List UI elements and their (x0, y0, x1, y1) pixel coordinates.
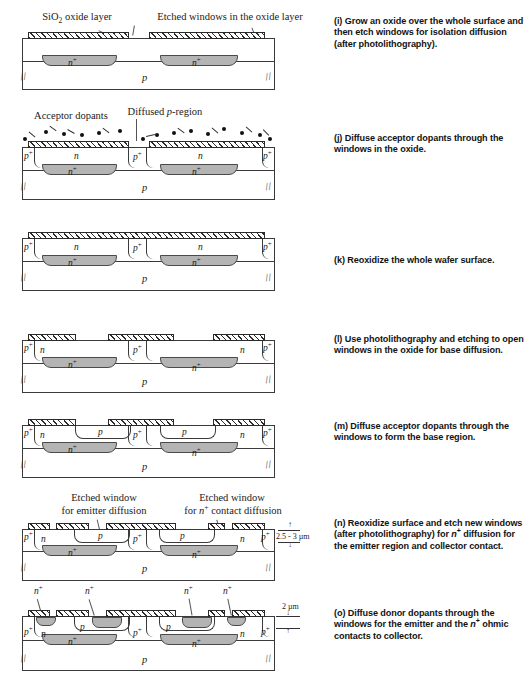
caption-marker-k: (k) (334, 255, 345, 265)
oxide-segment-1-m (28, 419, 76, 426)
label-p-substrate-l: p (142, 376, 147, 387)
label-p-plus-right-o: p+ (261, 627, 270, 637)
label-n-plus-callout-2-o: n+ (85, 586, 94, 596)
label-p-plus-mid-o: p+ (133, 628, 142, 638)
cross-section-n: p+ n p p+ p n p+ n+ n+ p // // ↑ 2.5 - 3… (0, 492, 340, 580)
label-p-plus-right-j: p+ (263, 151, 272, 161)
dimension-arrow-bottom-o: ↑ (286, 628, 290, 634)
buried-n-plus-left-n (42, 545, 117, 556)
caption-step-k: (k) Reoxidize the whole wafer surface. (334, 255, 530, 266)
label-p-base-right-o: p (166, 622, 171, 632)
oxide-segment-3-l (213, 334, 265, 341)
label-n-left-o: n (41, 629, 46, 639)
oxide-segment-1-l (28, 334, 76, 341)
label-p-substrate-j: p (142, 182, 147, 193)
label-n-right-k: n (198, 242, 203, 252)
n-plus-emitter-right-o (182, 617, 212, 628)
label-p-base-right-m: p (182, 427, 187, 437)
caption-text-j-line1: Diffuse acceptor dopants through the (345, 133, 504, 143)
label-n-plus-left-i: n+ (68, 58, 77, 68)
buried-n-plus-left-o (42, 634, 117, 645)
dopant-dot (141, 137, 145, 141)
oxide-layer-left-j (28, 141, 129, 148)
dopant-dot (172, 131, 176, 135)
caption-text-j-line2: windows in the oxide. (334, 144, 426, 154)
oxide-layer-right-j (149, 141, 265, 148)
dopant-dot (44, 130, 48, 134)
dimension-arrow-bottom-n: ↓ (288, 542, 292, 548)
caption-marker-n: (n) (334, 518, 345, 528)
label-p-base-right-n: p (180, 531, 185, 541)
caption-step-l: (l) Use photolithography and etching to … (334, 334, 530, 357)
label-p-plus-mid-n: p+ (133, 534, 142, 544)
panel-step-o: n+ n+ n+ n+ (0, 580, 340, 692)
dimension-label-o: 2 µm (282, 602, 299, 611)
leader-line-n-plus-2-o (89, 597, 101, 615)
label-n-plus-callout-1-o: n+ (34, 586, 43, 596)
dopant-dot (97, 131, 101, 135)
oxide-segment-4-o (208, 610, 225, 617)
cross-section-k: p+ n p+ n p+ n+ n+ p // // (0, 228, 330, 320)
oxide-segment-1-o (28, 610, 50, 617)
label-n-left-n: n (41, 534, 46, 544)
dopant-arrow (212, 128, 219, 134)
label-p-substrate-i: p (142, 72, 147, 83)
isolation-wall-left-k (34, 239, 41, 259)
caption-text-i-line3: photolithography). (359, 39, 438, 49)
label-n-plus-right-n: n+ (192, 550, 201, 560)
label-n-plus-right-j: n+ (192, 167, 201, 177)
label-p-substrate-o: p (142, 654, 147, 665)
label-n-plus-left-m: n+ (68, 445, 77, 455)
label-p-plus-right-m: p+ (263, 428, 272, 438)
isolation-wall-left-o (34, 617, 41, 637)
cross-section-o: n+ n+ n+ n+ (0, 580, 340, 692)
oxide-segment-4-n (208, 523, 225, 530)
dopant-arrow (177, 128, 184, 133)
dopant-dot (258, 133, 262, 137)
panel-step-j: Acceptor dopants Diffused p-region (0, 102, 330, 207)
oxide-segment-2-n (56, 523, 89, 530)
oxide-layer-right-i (149, 32, 265, 39)
label-n-right-j: n (198, 151, 203, 161)
label-n-left-k: n (74, 242, 79, 252)
dopant-dot (155, 133, 159, 137)
oxide-segment-2-m (108, 419, 174, 426)
dopant-dot (62, 132, 66, 136)
label-n-plus-right-i: n+ (192, 58, 201, 68)
oxide-segment-3-n (106, 523, 176, 530)
caption-text-n-line2: (after photolithography) for n+ diffusio… (334, 529, 515, 539)
caption-marker-m: (m) (334, 421, 348, 431)
caption-text-m-line1: Diffuse acceptor dopants through (350, 421, 493, 431)
isolation-wall-mid-b-k (146, 239, 153, 259)
isolation-wall-mid-b-o (146, 617, 153, 637)
caption-text-n-line3: the emitter region and collector contact… (334, 541, 503, 551)
label-p-plus-mid-k: p+ (133, 243, 142, 253)
p-base-left-m (75, 426, 131, 439)
dopant-arrow (263, 129, 269, 135)
label-p-plus-mid-m: p+ (133, 430, 142, 440)
label-n-left-j: n (74, 151, 79, 161)
caption-text-l-line2: windows in the oxide for base diffusion. (334, 345, 503, 355)
caption-text-i-line1: Grow an oxide over the whole surface and (345, 16, 523, 26)
caption-text-l-line1: Use photolithography and etching to open (345, 334, 524, 344)
panel-step-n: Etched window for emitter diffusion Etch… (0, 492, 340, 580)
oxide-segment-2-l (108, 334, 174, 341)
oxide-segment-5-n (232, 523, 265, 530)
dimension-arrow-top-n: ↑ (288, 522, 292, 528)
dopant-arrow (246, 126, 253, 132)
label-n-left-l: n (40, 345, 45, 355)
isolation-wall-mid-b-j (146, 148, 153, 168)
panel-step-l: p+ n p+ n p+ n+ n+ p // // (0, 330, 330, 410)
dopant-dot (23, 137, 27, 141)
caption-text-k-line1: Reoxidize the whole wafer surface. (347, 255, 494, 265)
oxide-layer-left-i (28, 32, 129, 39)
dopant-dot (80, 133, 84, 137)
cross-section-l: p+ n p+ n p+ n+ n+ p // // (0, 330, 330, 410)
p-base-right-m (160, 426, 216, 439)
label-n-right-m: n (240, 430, 245, 440)
label-p-substrate-k: p (142, 273, 147, 284)
dopant-arrow (49, 126, 56, 131)
leader-line-n-plus-3-o (189, 598, 199, 616)
isolation-wall-left-n (34, 530, 41, 550)
dimension-line-top-n (278, 530, 300, 531)
